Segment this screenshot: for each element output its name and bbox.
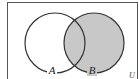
set-b-label: B	[89, 64, 96, 76]
venn-diagram: A B U	[0, 0, 139, 79]
set-a-label: A	[48, 64, 56, 76]
